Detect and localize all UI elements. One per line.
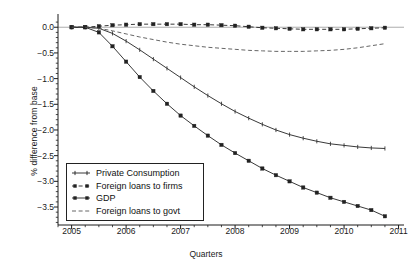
series-marker-1 xyxy=(274,27,277,30)
series-marker-2 xyxy=(152,89,155,92)
legend-entry: GDP xyxy=(71,192,198,205)
series-marker-2 xyxy=(274,173,277,176)
series-marker-2 xyxy=(302,186,305,189)
series-marker-2 xyxy=(329,196,332,199)
series-marker-2 xyxy=(233,151,236,154)
x-axis-label: Quarters xyxy=(0,249,412,259)
series-marker-1 xyxy=(165,22,168,25)
legend-key-icon xyxy=(71,167,91,179)
series-marker-1 xyxy=(370,27,373,30)
series-marker-2 xyxy=(220,143,223,146)
series-line-3 xyxy=(72,27,385,51)
series-marker-1 xyxy=(233,24,236,27)
series-line-0 xyxy=(72,27,385,148)
series-marker-1 xyxy=(247,25,250,28)
series-marker-2 xyxy=(193,124,196,127)
series-marker-1 xyxy=(138,22,141,25)
series-marker-1 xyxy=(206,23,209,26)
legend-label: Foreign loans to firms xyxy=(96,180,183,193)
legend-entry: Foreign loans to govt xyxy=(71,205,198,218)
series-marker-2 xyxy=(111,45,114,48)
series-marker-1 xyxy=(124,23,127,26)
series-marker-2 xyxy=(383,215,386,218)
series-marker-1 xyxy=(152,22,155,25)
series-marker-1 xyxy=(356,27,359,30)
series-marker-1 xyxy=(220,23,223,26)
series-line-1 xyxy=(72,24,385,29)
series-marker-2 xyxy=(288,180,291,183)
legend-key-icon xyxy=(71,192,91,204)
series-marker-2 xyxy=(179,114,182,117)
legend-key-icon xyxy=(71,205,91,217)
series-marker-2 xyxy=(247,159,250,162)
series-marker-1 xyxy=(383,26,386,29)
legend-key-icon xyxy=(71,180,91,192)
legend-label: Foreign loans to govt xyxy=(96,205,180,218)
plot-area xyxy=(0,0,412,261)
chart-legend: Private ConsumptionForeign loans to firm… xyxy=(66,163,204,221)
series-marker-2 xyxy=(342,200,345,203)
series-marker-1 xyxy=(97,25,100,28)
series-marker-1 xyxy=(261,26,264,29)
series-marker-1 xyxy=(111,23,114,26)
legend-label: Private Consumption xyxy=(96,167,180,180)
series-marker-1 xyxy=(302,28,305,31)
series-marker-1 xyxy=(193,23,196,26)
series-marker-2 xyxy=(370,208,373,211)
series-marker-1 xyxy=(329,28,332,31)
legend-label: GDP xyxy=(96,192,116,205)
series-marker-2 xyxy=(356,204,359,207)
series-marker-2 xyxy=(206,134,209,137)
series-marker-2 xyxy=(261,167,264,170)
series-marker-2 xyxy=(124,60,127,63)
series-marker-2 xyxy=(315,191,318,194)
series-marker-1 xyxy=(342,28,345,31)
series-marker-2 xyxy=(138,75,141,78)
legend-entry: Private Consumption xyxy=(71,167,198,180)
series-marker-1 xyxy=(179,22,182,25)
series-marker-2 xyxy=(97,31,100,34)
series-marker-2 xyxy=(165,102,168,105)
series-marker-1 xyxy=(288,27,291,30)
legend-entry: Foreign loans to firms xyxy=(71,180,198,193)
chart-figure: % difference from base 0.0−0.5−1.0−1.5−2… xyxy=(0,0,412,261)
series-marker-1 xyxy=(315,28,318,31)
